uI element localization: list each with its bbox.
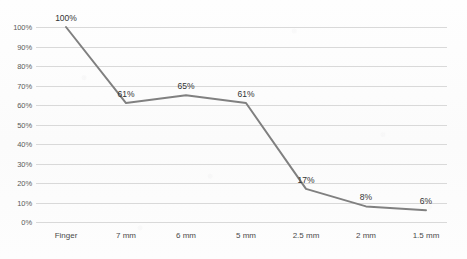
data-point-label: 100% — [55, 13, 77, 23]
data-point-label: 17% — [297, 175, 314, 185]
plot-area: 100%61%65%61%17%8%6% — [36, 27, 447, 222]
y-axis-tick-label: 0% — [2, 218, 32, 227]
y-axis-tick-label: 20% — [2, 179, 32, 188]
x-axis-tick-label: 7 mm — [116, 231, 136, 240]
data-point-label: 61% — [237, 89, 254, 99]
line-chart: 100%61%65%61%17%8%6% 100%90%80%70%60%50%… — [0, 0, 467, 259]
y-axis-tick-label: 50% — [2, 120, 32, 129]
y-axis: 100%90%80%70%60%50%40%30%20%10%0% — [0, 27, 32, 222]
y-axis-tick-label: 10% — [2, 198, 32, 207]
x-axis-tick-label: 1.5 mm — [413, 231, 440, 240]
y-axis-tick-label: 60% — [2, 101, 32, 110]
series-polyline — [66, 27, 426, 210]
x-axis-tick-label: 2 mm — [356, 231, 376, 240]
data-point-label: 65% — [177, 81, 194, 91]
y-axis-tick-label: 100% — [2, 23, 32, 32]
data-point-label: 61% — [117, 89, 134, 99]
x-axis-tick-label: 5 mm — [236, 231, 256, 240]
data-point-label: 8% — [360, 192, 372, 202]
y-axis-tick-label: 80% — [2, 62, 32, 71]
y-axis-tick-label: 30% — [2, 159, 32, 168]
x-axis-tick-label: Finger — [55, 231, 78, 240]
y-axis-tick-label: 70% — [2, 81, 32, 90]
series-line — [36, 27, 447, 222]
data-point-label: 6% — [420, 196, 432, 206]
gridline — [36, 222, 447, 223]
x-axis: Finger7 mm6 mm5 mm2.5 mm2 mm1.5 mm — [0, 231, 467, 247]
x-axis-tick-label: 6 mm — [176, 231, 196, 240]
x-axis-tick-label: 2.5 mm — [293, 231, 320, 240]
y-axis-tick-label: 40% — [2, 140, 32, 149]
y-axis-tick-label: 90% — [2, 42, 32, 51]
